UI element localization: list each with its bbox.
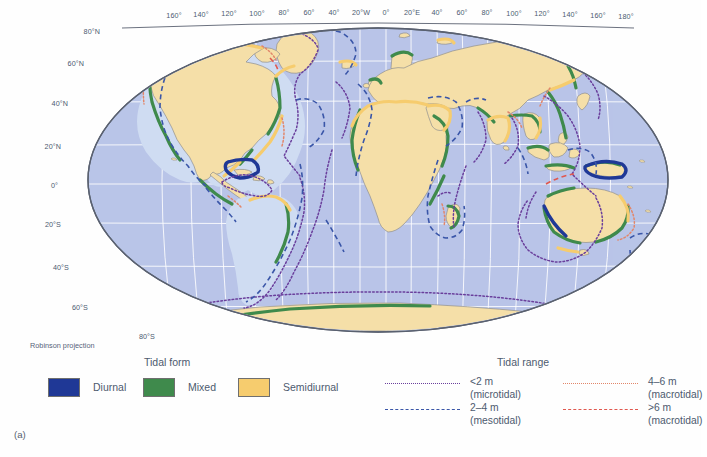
longitude-label: 180° xyxy=(618,12,633,21)
latitude-label: 0° xyxy=(51,181,58,190)
top-axis-line xyxy=(122,23,634,28)
line-sample-microtidal xyxy=(385,383,460,384)
legend-item-macrotidal-4-6[interactable]: 4–6 m (macrotidal) xyxy=(563,376,707,402)
swatch-semidiurnal xyxy=(238,378,270,397)
latitude-label: 20°S xyxy=(45,220,61,229)
longitude-label: 160° xyxy=(166,11,181,20)
latitude-label: 40°N xyxy=(52,99,68,108)
projection-note: Robinson projection xyxy=(30,341,95,350)
new-zealand-south xyxy=(638,249,652,260)
longitude-label: 80° xyxy=(481,8,492,17)
antarctica xyxy=(148,303,616,338)
arctic-island-1 xyxy=(212,32,247,45)
latitude-label: 60°N xyxy=(68,59,84,68)
legend-label-microtidal: <2 m (microtidal) xyxy=(470,376,521,401)
longitude-label: 0° xyxy=(382,8,389,17)
longitude-label: 120° xyxy=(221,9,236,18)
longitude-label: 140° xyxy=(562,10,577,19)
latitude-label: 80°N xyxy=(84,27,100,36)
swatch-diurnal xyxy=(48,378,80,397)
sri-lanka xyxy=(503,146,509,150)
latitude-label: 60°S xyxy=(72,303,88,312)
legend-title-tidal-form: Tidal form xyxy=(144,356,190,368)
latitude-label: 20°N xyxy=(45,142,61,151)
line-sample-macrotidal-gt6 xyxy=(563,409,638,410)
macrotidal-gt6-range-value: >6 m xyxy=(648,402,671,413)
legend-label-macrotidal-gt6: >6 m (macrotidal) xyxy=(648,402,702,427)
longitude-label: 120° xyxy=(534,9,549,18)
arctic-island-3 xyxy=(196,35,212,43)
legend-item-mesotidal[interactable]: 2–4 m (mesotidal) xyxy=(385,402,545,428)
mesotidal-range-value: 2–4 m xyxy=(470,402,499,413)
island-svalbard xyxy=(399,33,410,38)
mesotidal-range-note: (mesotidal) xyxy=(470,415,521,426)
panel-label: (a) xyxy=(14,429,26,440)
longitude-label: 100° xyxy=(249,9,264,18)
longitude-label: 40° xyxy=(328,8,339,17)
world-map: 160° 140° 120° 100° 80° 60° 40° 20°W 0° … xyxy=(0,0,701,345)
longitude-label: 40° xyxy=(431,8,442,17)
macrotidal-gt6-range-note: (macrotidal) xyxy=(648,415,702,426)
longitude-label: 100° xyxy=(506,9,521,18)
latitude-label: 40°S xyxy=(53,263,69,272)
legend: Tidal form Tidal range Diurnal Mixed Sem… xyxy=(0,352,701,457)
legend-label-diurnal: Diurnal xyxy=(93,381,126,393)
new-zealand-north xyxy=(648,238,658,247)
longitude-label: 20°E xyxy=(404,8,420,17)
longitude-label: 60° xyxy=(456,8,467,17)
legend-label-macrotidal-4-6: 4–6 m (macrotidal) xyxy=(648,376,702,401)
legend-item-microtidal[interactable]: <2 m (microtidal) xyxy=(385,376,545,402)
legend-label-mesotidal: 2–4 m (mesotidal) xyxy=(470,402,521,427)
line-sample-macrotidal-4-6 xyxy=(563,383,638,384)
legend-label-semidiurnal: Semidiurnal xyxy=(283,381,338,393)
macrotidal-4-6-range-note: (macrotidal) xyxy=(648,389,702,400)
longitude-label: 80° xyxy=(278,8,289,17)
latitude-label: 80°S xyxy=(139,332,155,341)
legend-item-macrotidal-gt6[interactable]: >6 m (macrotidal) xyxy=(563,402,707,428)
longitude-label: 140° xyxy=(193,10,208,19)
map-canvas xyxy=(0,0,701,345)
line-sample-mesotidal xyxy=(385,409,460,410)
legend-title-tidal-range: Tidal range xyxy=(497,356,549,368)
longitude-label: 20°W xyxy=(352,8,370,17)
macrotidal-4-6-range-value: 4–6 m xyxy=(648,376,677,387)
longitude-label: 60° xyxy=(303,8,314,17)
microtidal-range-value: <2 m xyxy=(470,376,493,387)
microtidal-range-note: (microtidal) xyxy=(470,389,521,400)
longitude-label: 160° xyxy=(590,11,605,20)
legend-label-mixed: Mixed xyxy=(188,381,216,393)
swatch-mixed xyxy=(143,378,175,397)
